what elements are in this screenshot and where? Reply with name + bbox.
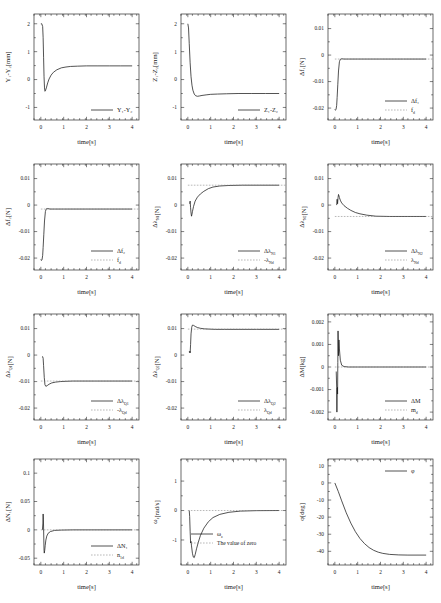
svg-text:ΔλN1: ΔλN1 bbox=[264, 247, 276, 256]
svg-text:0: 0 bbox=[186, 124, 189, 130]
svg-text:4: 4 bbox=[278, 274, 281, 280]
subplot-p10: 012340.10.050-0.05time[s]ΔN₁[N]ΔN₁n1d bbox=[0, 445, 147, 603]
svg-text:1: 1 bbox=[209, 274, 212, 280]
svg-text:The value of zero: The value of zero bbox=[217, 540, 256, 546]
svg-text:0.1: 0.1 bbox=[23, 470, 30, 476]
subplot-p8: 012340.010-0.01-0.02time[s]ΔλQ2[N]ΔλQ2λQ… bbox=[147, 300, 294, 445]
svg-text:ΔN₁[N]: ΔN₁[N] bbox=[4, 502, 12, 522]
svg-text:φ: φ bbox=[411, 467, 415, 474]
svg-text:0: 0 bbox=[321, 364, 324, 370]
svg-text:-30: -30 bbox=[317, 531, 324, 537]
svg-text:3: 3 bbox=[108, 424, 111, 430]
svg-text:Δf₁: Δf₁ bbox=[411, 97, 419, 104]
svg-text:2: 2 bbox=[85, 424, 88, 430]
svg-text:0.01: 0.01 bbox=[168, 325, 178, 331]
svg-text:time[s]: time[s] bbox=[224, 138, 243, 146]
svg-text:3: 3 bbox=[108, 124, 111, 130]
svg-text:3: 3 bbox=[255, 274, 258, 280]
svg-text:time[s]: time[s] bbox=[224, 583, 243, 591]
svg-text:-0.05: -0.05 bbox=[19, 555, 31, 561]
svg-text:4: 4 bbox=[425, 569, 428, 575]
svg-text:Y₁-Y₂[mm]: Y₁-Y₂[mm] bbox=[4, 52, 12, 83]
svg-text:3: 3 bbox=[108, 274, 111, 280]
svg-text:2: 2 bbox=[174, 21, 177, 27]
svg-text:-10: -10 bbox=[317, 497, 324, 503]
svg-text:time[s]: time[s] bbox=[77, 583, 96, 591]
svg-text:0: 0 bbox=[321, 480, 324, 486]
svg-text:0: 0 bbox=[174, 202, 177, 208]
svg-text:ΔλN1[N]: ΔλN1[N] bbox=[151, 206, 161, 227]
svg-text:md: md bbox=[411, 406, 418, 415]
svg-text:0: 0 bbox=[333, 124, 336, 130]
subplot-p6: 012340.010-0.01-0.02time[s]ΔλN2[N]ΔλN2λN… bbox=[294, 150, 441, 300]
svg-text:time[s]: time[s] bbox=[371, 138, 390, 146]
svg-text:0: 0 bbox=[174, 352, 177, 358]
svg-text:-λNd: -λNd bbox=[264, 256, 274, 265]
svg-text:0: 0 bbox=[186, 274, 189, 280]
svg-text:-0.02: -0.02 bbox=[166, 405, 178, 411]
svg-text:0: 0 bbox=[39, 569, 42, 575]
svg-text:3: 3 bbox=[255, 424, 258, 430]
svg-text:4: 4 bbox=[131, 124, 134, 130]
svg-text:-0.001: -0.001 bbox=[310, 386, 324, 392]
subplot-p1: 01234210-1time[s]Y₁-Y₂[mm]Y₁-Y₂ bbox=[0, 0, 147, 150]
svg-text:λNd: λNd bbox=[411, 256, 419, 265]
svg-text:3: 3 bbox=[108, 569, 111, 575]
svg-text:0.001: 0.001 bbox=[312, 341, 324, 347]
svg-text:ωz[rad/s]: ωz[rad/s] bbox=[151, 500, 161, 523]
svg-text:2: 2 bbox=[379, 569, 382, 575]
svg-text:-0.02: -0.02 bbox=[166, 255, 178, 261]
svg-text:ΔM: ΔM bbox=[411, 397, 421, 404]
svg-text:3: 3 bbox=[402, 124, 405, 130]
svg-text:Z₁-Z₂: Z₁-Z₂ bbox=[264, 106, 278, 113]
svg-text:-0.01: -0.01 bbox=[166, 378, 178, 384]
svg-text:2: 2 bbox=[232, 569, 235, 575]
svg-text:0: 0 bbox=[39, 424, 42, 430]
svg-text:2: 2 bbox=[379, 424, 382, 430]
svg-text:ΔM[kg]: ΔM[kg] bbox=[298, 356, 306, 377]
svg-text:3: 3 bbox=[402, 424, 405, 430]
svg-text:3: 3 bbox=[402, 569, 405, 575]
svg-text:-0.02: -0.02 bbox=[313, 105, 325, 111]
svg-text:1: 1 bbox=[62, 569, 65, 575]
svg-text:4: 4 bbox=[131, 569, 134, 575]
svg-text:time[s]: time[s] bbox=[371, 583, 390, 591]
svg-text:3: 3 bbox=[402, 274, 405, 280]
svg-text:0.01: 0.01 bbox=[168, 175, 178, 181]
svg-text:3: 3 bbox=[255, 124, 258, 130]
svg-text:4: 4 bbox=[131, 424, 134, 430]
svg-text:-0.01: -0.01 bbox=[313, 228, 325, 234]
svg-text:4: 4 bbox=[425, 124, 428, 130]
svg-text:fd: fd bbox=[411, 106, 415, 115]
svg-text:2: 2 bbox=[232, 124, 235, 130]
svg-text:ΔλQ1[N]: ΔλQ1[N] bbox=[4, 356, 14, 377]
svg-text:0: 0 bbox=[321, 202, 324, 208]
svg-text:ΔN₁: ΔN₁ bbox=[117, 542, 128, 549]
svg-text:Y₁-Y₂: Y₁-Y₂ bbox=[117, 106, 132, 113]
svg-text:0: 0 bbox=[27, 202, 30, 208]
svg-text:1: 1 bbox=[62, 274, 65, 280]
subplot-p11: 0123410-1time[s]ωz[rad/s]ωzThe value of … bbox=[147, 445, 294, 603]
svg-text:0.01: 0.01 bbox=[315, 175, 325, 181]
svg-text:0.01: 0.01 bbox=[21, 325, 31, 331]
svg-text:0: 0 bbox=[27, 527, 30, 533]
svg-text:-40: -40 bbox=[317, 548, 324, 554]
svg-text:2: 2 bbox=[27, 21, 30, 27]
svg-text:-0.01: -0.01 bbox=[19, 378, 31, 384]
svg-text:2: 2 bbox=[379, 274, 382, 280]
svg-text:n1d: n1d bbox=[117, 551, 124, 560]
svg-text:0: 0 bbox=[27, 352, 30, 358]
svg-text:4: 4 bbox=[278, 569, 281, 575]
svg-text:-20: -20 bbox=[317, 514, 324, 520]
svg-text:Δf₂: Δf₂ bbox=[117, 247, 125, 254]
svg-text:time[s]: time[s] bbox=[77, 138, 96, 146]
svg-text:-1: -1 bbox=[173, 104, 178, 110]
svg-text:2: 2 bbox=[85, 274, 88, 280]
svg-text:-λQd: -λQd bbox=[117, 406, 127, 415]
svg-text:fd: fd bbox=[117, 256, 121, 265]
svg-text:1: 1 bbox=[174, 49, 177, 55]
svg-text:Z₁-Z₂[mm]: Z₁-Z₂[mm] bbox=[151, 52, 159, 82]
subplot-p4: 012340.010-0.01-0.02time[s]Δf₂[N]Δf₂fd bbox=[0, 150, 147, 300]
svg-text:0: 0 bbox=[333, 424, 336, 430]
svg-text:Δf₁[N]: Δf₁[N] bbox=[298, 58, 306, 76]
